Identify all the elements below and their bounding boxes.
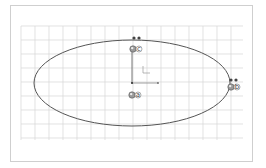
- constraint-marker-icon[interactable]: [132, 36, 135, 39]
- constraint-marker-icon[interactable]: [137, 36, 140, 39]
- point-handle-a[interactable]: [129, 92, 135, 98]
- coordinate-system-icon: [143, 66, 150, 73]
- point-handle-c[interactable]: [130, 46, 136, 52]
- point-highlight: [229, 85, 231, 87]
- point-handle-b[interactable]: [228, 84, 234, 90]
- constraint-marker-icon[interactable]: [229, 78, 232, 81]
- constraint-marker-icon[interactable]: [234, 78, 237, 81]
- point-highlight: [130, 93, 132, 95]
- point-label-a: a: [136, 91, 140, 99]
- point-highlight: [131, 47, 133, 49]
- x-axis-arrow-icon: [157, 82, 159, 84]
- point-label-b: b: [235, 83, 240, 91]
- origin-point[interactable]: [131, 82, 133, 84]
- sketch-canvas[interactable]: abc: [0, 0, 266, 168]
- point-label-c: c: [137, 45, 141, 53]
